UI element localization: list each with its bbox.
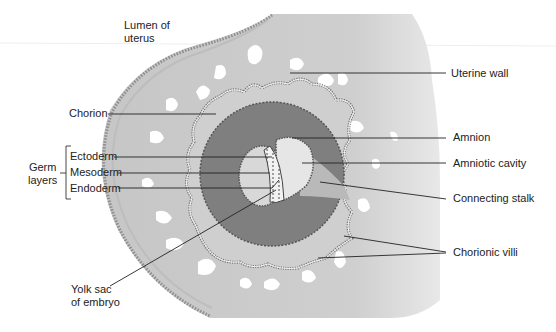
label-chorion: Chorion: [69, 107, 108, 120]
label-mesoderm: Mesoderm: [70, 166, 122, 179]
label-line: of embryo: [71, 296, 120, 309]
label-line: uterus: [124, 32, 170, 45]
label-endoderm: Endoderm: [70, 182, 121, 195]
label-chorionic-villi: Chorionic villi: [453, 246, 518, 259]
label-amniotic-cavity: Amniotic cavity: [453, 157, 526, 170]
label-uterine-wall: Uterine wall: [451, 67, 508, 80]
label-lumen-of-uterus: Lumen of uterus: [124, 19, 170, 45]
label-line: Lumen of: [124, 19, 170, 32]
label-line: Germ: [28, 161, 57, 174]
label-yolk-sac: Yolk sac of embryo: [71, 283, 120, 309]
label-ectoderm: Ectoderm: [70, 150, 117, 163]
label-line: Yolk sac: [71, 283, 120, 296]
label-amnion: Amnion: [453, 131, 490, 144]
label-germ-layers: Germ layers: [28, 161, 57, 187]
label-connecting-stalk: Connecting stalk: [453, 192, 534, 205]
label-line: layers: [28, 174, 57, 187]
